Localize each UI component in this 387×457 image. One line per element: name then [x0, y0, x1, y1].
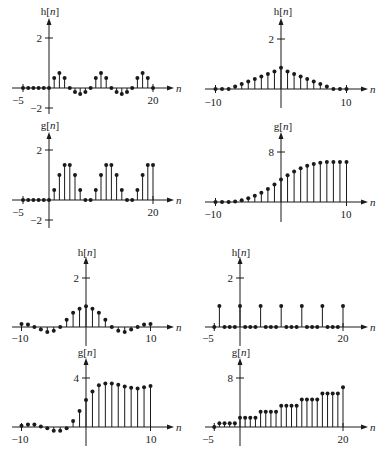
stem-marker — [227, 87, 231, 91]
stem-marker — [151, 163, 155, 167]
stem-marker — [65, 426, 69, 430]
stem-marker — [243, 416, 247, 420]
y-tick-label: 2 — [37, 32, 43, 44]
stem-marker — [246, 80, 250, 84]
stem-marker — [315, 325, 319, 329]
y-tick-label: 2 — [74, 272, 80, 284]
stem-marker — [142, 385, 146, 389]
stem-marker — [284, 404, 288, 408]
y-tick-label: −2 — [30, 102, 42, 114]
stem-marker — [310, 398, 314, 402]
stem-marker — [292, 169, 296, 173]
x-tick-label: 10 — [146, 433, 158, 445]
stem-marker — [238, 416, 242, 420]
stem-marker — [78, 92, 82, 96]
stem-marker — [279, 304, 283, 308]
stem-marker — [20, 322, 24, 326]
stem-marker — [68, 86, 72, 90]
stem-marker — [141, 71, 145, 75]
stem-marker — [272, 70, 276, 74]
stem-marker — [26, 86, 30, 90]
stem-marker — [336, 325, 340, 329]
stem-marker — [325, 160, 329, 164]
y-axis-arrow-icon — [279, 132, 284, 139]
stem-marker — [45, 330, 49, 334]
stem-marker — [243, 325, 247, 329]
stem-marker — [26, 323, 30, 327]
x-axis-label: n — [370, 421, 376, 433]
stem-marker — [104, 76, 108, 80]
stem-marker — [312, 162, 316, 166]
stem-marker — [42, 86, 46, 90]
stem-marker — [233, 85, 237, 89]
stem-marker — [212, 325, 216, 329]
stem-marker — [305, 77, 309, 81]
stem-marker — [279, 178, 283, 182]
stem-marker — [84, 398, 88, 402]
x-axis-label: n — [370, 321, 376, 333]
stem-marker — [253, 77, 257, 81]
stem-marker — [284, 325, 288, 329]
stem-marker — [266, 187, 270, 191]
stem-marker — [47, 198, 51, 202]
stem-marker — [240, 82, 244, 86]
stem-marker — [47, 86, 51, 90]
stem-marker — [89, 198, 93, 202]
stem-marker — [120, 92, 124, 96]
stem-marker — [233, 421, 237, 425]
stem-marker — [345, 87, 349, 91]
stem-marker — [318, 161, 322, 165]
x-tick-label: 20 — [148, 206, 160, 218]
panel-bl-g: g[n]n4−1010 — [11, 346, 182, 446]
stem-marker — [318, 82, 322, 86]
stem-marker — [266, 72, 270, 76]
stem-marker — [338, 87, 342, 91]
stem-marker — [71, 419, 75, 423]
x-axis-arrow-icon — [167, 198, 174, 203]
figure: h[n]n2−2−520g[n]n2−2−520h[n]n2−1010g[n]n… — [0, 0, 387, 457]
stem-marker — [130, 86, 134, 90]
stem-marker — [97, 311, 101, 315]
stem-marker — [269, 325, 273, 329]
stem-marker — [94, 188, 98, 192]
stem-marker — [290, 325, 294, 329]
stem-marker — [305, 398, 309, 402]
stem-marker — [58, 429, 62, 433]
stem-marker — [286, 173, 290, 177]
stem-marker — [123, 330, 127, 334]
panel-tl-h: h[n]n2−2−520 — [12, 5, 182, 114]
stem-marker — [310, 325, 314, 329]
stem-marker — [58, 325, 62, 329]
x-axis-arrow-icon — [167, 425, 174, 430]
stem-marker — [125, 198, 129, 202]
x-axis-label: n — [370, 83, 376, 95]
stem-marker — [223, 325, 227, 329]
stem-marker — [73, 90, 77, 94]
stem-marker — [83, 198, 87, 202]
x-tick-label: 20 — [338, 433, 350, 445]
stem-marker — [212, 425, 216, 429]
stem-marker — [286, 70, 290, 74]
panel-title: h[n] — [78, 246, 96, 258]
x-axis-arrow-icon — [361, 325, 368, 330]
y-tick-label: −2 — [30, 214, 42, 226]
stem-marker — [110, 325, 114, 329]
stem-marker — [253, 194, 257, 198]
stem-marker — [233, 325, 237, 329]
stem-marker — [21, 198, 25, 202]
stem-marker — [331, 325, 335, 329]
stem-marker — [52, 188, 56, 192]
stem-marker — [116, 383, 120, 387]
stem-marker — [220, 200, 224, 204]
panel-title: h[n] — [274, 5, 292, 17]
y-tick-label: 2 — [37, 144, 43, 156]
stem-marker — [21, 86, 25, 90]
stem-marker — [136, 386, 140, 390]
stem-marker — [253, 416, 257, 420]
y-axis-arrow-icon — [47, 132, 52, 139]
x-tick-label: 20 — [148, 94, 160, 106]
stem-marker — [214, 200, 218, 204]
stem-marker — [217, 304, 221, 308]
stem-marker — [99, 173, 103, 177]
stem-marker — [26, 423, 30, 427]
